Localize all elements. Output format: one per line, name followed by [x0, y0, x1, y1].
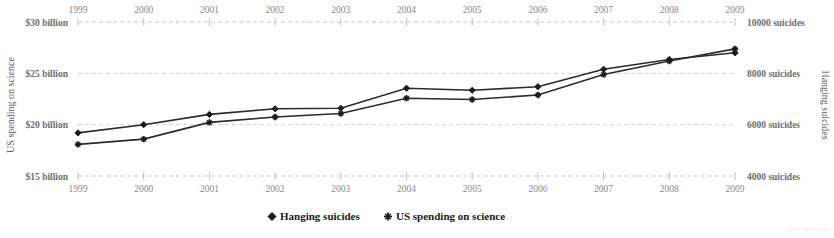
watermark: tylervigen.com — [788, 225, 831, 233]
data-point-marker — [600, 71, 606, 77]
data-point-marker — [338, 110, 344, 116]
data-point-marker — [272, 114, 278, 120]
left-axis-tick-label: $15 billion — [26, 172, 69, 182]
chart-background — [0, 0, 834, 238]
left-axis-tick-label: $25 billion — [26, 69, 69, 79]
data-point-marker — [469, 96, 475, 102]
right-axis-tick-label: 4000 suicides — [747, 172, 800, 182]
legend-label[interactable]: US spending on science — [396, 210, 505, 222]
x-axis-bottom-label: 2001 — [200, 184, 219, 194]
spurious-correlation-chart: $30 billion$25 billion$20 billion$15 bil… — [0, 0, 834, 238]
x-axis-bottom-label: 2007 — [594, 184, 613, 194]
left-axis-title: US spending on science — [5, 57, 16, 153]
x-axis-top-label: 2000 — [134, 5, 153, 15]
x-axis-bottom-label: 2006 — [528, 184, 547, 194]
right-axis-title: Hanging suicides — [820, 70, 831, 139]
chart-container: $30 billion$25 billion$20 billion$15 bil… — [0, 0, 834, 238]
x-axis-top-label: 2008 — [660, 5, 679, 15]
x-axis-bottom-label: 2003 — [331, 184, 350, 194]
x-axis-bottom-label: 2002 — [266, 184, 285, 194]
x-axis-bottom-label: 2009 — [726, 184, 745, 194]
x-axis-top-label: 1999 — [69, 5, 88, 15]
x-axis-bottom-label: 2005 — [463, 184, 482, 194]
x-axis-top-label: 2003 — [331, 5, 350, 15]
data-point-marker — [206, 119, 212, 125]
x-axis-bottom-label: 2008 — [660, 184, 679, 194]
x-axis-bottom-label: 1999 — [69, 184, 88, 194]
x-axis-top-label: 2005 — [463, 5, 482, 15]
right-axis-tick-label: 10000 suicides — [747, 18, 805, 28]
x-axis-top-label: 2006 — [528, 5, 547, 15]
x-axis-top-label: 2009 — [726, 5, 745, 15]
x-axis-top-label: 2002 — [266, 5, 285, 15]
x-axis-bottom-label: 2000 — [134, 184, 153, 194]
data-point-marker — [732, 46, 738, 52]
right-axis-tick-label: 6000 suicides — [747, 120, 800, 130]
right-axis-tick-label: 8000 suicides — [747, 69, 800, 79]
data-point-marker — [535, 92, 541, 98]
x-axis-top-label: 2001 — [200, 5, 219, 15]
legend-plus-icon — [384, 213, 392, 221]
left-axis-tick-label: $20 billion — [26, 120, 69, 130]
legend-label[interactable]: Hanging suicides — [280, 210, 360, 222]
left-axis-tick-label: $30 billion — [26, 18, 69, 28]
x-axis-top-label: 2007 — [594, 5, 613, 15]
data-point-marker — [75, 141, 81, 147]
x-axis-bottom-label: 2004 — [397, 184, 416, 194]
x-axis-top-label: 2004 — [397, 5, 416, 15]
